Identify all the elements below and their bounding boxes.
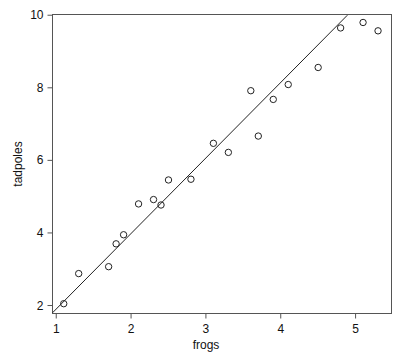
figure-background [0,0,403,364]
y-axis-title: tadpoles [11,141,25,186]
y-tick-label: 4 [37,226,44,240]
y-tick-label: 6 [37,153,44,167]
x-axis-title: frogs [193,338,220,352]
x-tick-label: 2 [128,322,135,336]
x-tick-label: 5 [352,322,359,336]
y-tick-label: 8 [37,81,44,95]
x-tick-label: 3 [203,322,210,336]
x-tick-label: 4 [277,322,284,336]
y-tick-label: 10 [30,8,44,22]
x-tick-label: 1 [53,322,60,336]
plot-canvas: 246810 12345 frogs tadpoles [0,0,403,364]
y-tick-label: 2 [37,299,44,313]
scatter-plot-figure: 246810 12345 frogs tadpoles [0,0,403,364]
